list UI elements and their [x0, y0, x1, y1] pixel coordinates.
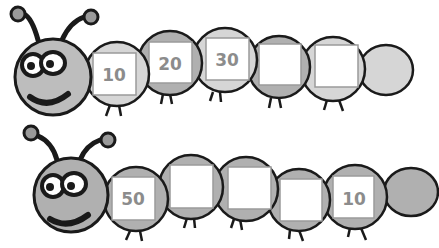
- caterpillar-head: [24, 126, 115, 232]
- segment-number: 10: [102, 65, 126, 85]
- segment-4: [248, 36, 310, 108]
- leg: [339, 100, 343, 111]
- leg: [231, 219, 234, 228]
- antenna-tip: [101, 133, 115, 147]
- leg: [289, 230, 290, 239]
- segment-1: 50: [104, 167, 168, 241]
- antenna: [24, 14, 38, 40]
- answer-box-empty[interactable]: [315, 45, 358, 87]
- tail: [384, 168, 438, 216]
- answer-box-empty[interactable]: [259, 44, 301, 85]
- antenna-tip: [84, 10, 98, 24]
- tail: [359, 45, 413, 95]
- leg: [126, 231, 130, 240]
- antenna: [38, 136, 57, 160]
- pupil: [46, 60, 54, 68]
- pupil: [67, 182, 75, 190]
- answer-box-empty[interactable]: [170, 165, 213, 208]
- segment-number: 50: [121, 189, 145, 209]
- segment-number: 20: [158, 54, 182, 74]
- antenna-tip: [11, 7, 25, 21]
- leg: [279, 98, 281, 108]
- segment-number: 10: [342, 189, 366, 209]
- pupil: [27, 62, 35, 70]
- leg: [161, 94, 163, 104]
- leg: [269, 98, 271, 108]
- segment-5: 10: [323, 165, 387, 240]
- antenna: [80, 140, 100, 160]
- segment-2: [159, 155, 223, 228]
- antenna-tip: [24, 126, 38, 140]
- segment-1: 10: [85, 42, 149, 116]
- leg: [220, 92, 221, 102]
- pupil: [46, 183, 54, 191]
- leg: [361, 228, 366, 240]
- answer-box-empty[interactable]: [228, 167, 271, 209]
- segment-number: 30: [215, 50, 239, 70]
- caterpillar-worksheet: 30 20 10: [0, 0, 439, 248]
- answer-box-empty[interactable]: [280, 179, 322, 221]
- antenna: [62, 17, 84, 40]
- leg: [210, 92, 213, 101]
- segment-5: [301, 37, 365, 111]
- caterpillar-top: 30 20 10: [11, 7, 413, 116]
- leg: [106, 105, 110, 116]
- caterpillar-bottom: 10 50: [24, 126, 438, 241]
- caterpillar-head: [11, 7, 98, 115]
- leg: [140, 231, 142, 241]
